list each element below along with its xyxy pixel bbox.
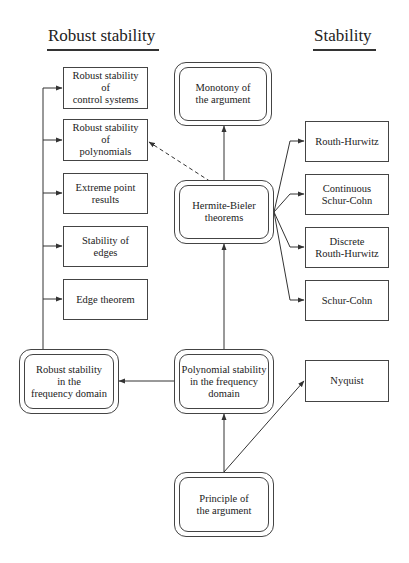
node-label: Continuous Schur-Cohn: [320, 183, 375, 207]
node-robust-control-systems: Robust stability of control systems: [63, 67, 148, 109]
node-edge-theorem: Edge theorem: [63, 279, 148, 320]
node-schur-cohn: Schur-Cohn: [305, 280, 389, 321]
node-label: Extreme point results: [74, 182, 138, 206]
node-label: Edge theorem: [74, 294, 137, 306]
node-continuous-schur-cohn: Continuous Schur-Cohn: [305, 174, 389, 215]
node-polynomial-stability-frequency-domain: Polynomial stability in the frequency do…: [174, 349, 274, 414]
node-label: Routh-Hurwitz: [313, 136, 381, 148]
node-nyquist: Nyquist: [305, 360, 389, 402]
node-label: Monotony of the argument: [193, 82, 252, 106]
node-label: Polynomial stability in the frequency do…: [180, 364, 269, 400]
node-label: Principle of the argument: [195, 493, 254, 517]
node-label: Hermite-Bieler theorems: [190, 200, 258, 224]
node-label: Discrete Routh-Hurwitz: [313, 236, 381, 260]
node-routh-hurwitz: Routh-Hurwitz: [305, 121, 389, 162]
node-hermite-bieler-theorems: Hermite-Bieler theorems: [174, 180, 274, 244]
node-robust-polynomials: Robust stability of polynomials: [63, 119, 148, 161]
node-label: Schur-Cohn: [320, 295, 375, 307]
node-robust-stability-frequency-domain: Robust stability in the frequency domain: [19, 349, 119, 414]
node-label: Robust stability of control systems: [70, 70, 140, 106]
node-label: Nyquist: [328, 375, 365, 387]
node-extreme-point-results: Extreme point results: [63, 173, 148, 214]
node-principle-of-argument: Principle of the argument: [174, 472, 274, 537]
node-label: Robust stability of polynomials: [70, 122, 140, 158]
edge-hermite-to-continuous-schur-cohn: [274, 194, 304, 212]
node-monotony-of-argument: Monotony of the argument: [174, 62, 272, 126]
node-discrete-routh-hurwitz: Discrete Routh-Hurwitz: [305, 227, 389, 268]
node-label: Stability of edges: [80, 235, 131, 259]
edge-hermite-to-routh-hurwitz: [274, 141, 304, 212]
node-stability-of-edges: Stability of edges: [63, 226, 148, 267]
edge-hermite-to-schur-cohn: [274, 212, 304, 300]
edge-hermite-to-discrete-routh-hurwitz: [274, 212, 304, 247]
node-label: Robust stability in the frequency domain: [29, 364, 109, 400]
